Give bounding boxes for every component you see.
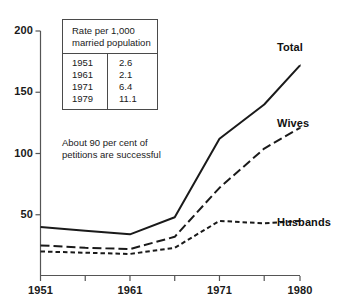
- x-axis-tick-label: 1951: [21, 284, 61, 296]
- chart-note: About 90 per cent of petitions are succe…: [62, 137, 172, 160]
- inset-table-year: 1961: [63, 69, 107, 81]
- inset-table-rate: 2.1: [107, 69, 157, 81]
- inset-rate-table: Rate per 1,000 married population 19512.…: [62, 19, 158, 110]
- y-axis-tick-label: 150: [3, 85, 33, 97]
- inset-table-year: 1971: [63, 81, 107, 93]
- y-axis-tick-label: 50: [3, 208, 33, 220]
- inset-table-caption: Rate per 1,000 married population: [63, 20, 157, 54]
- inset-table-year: 1979: [63, 93, 107, 105]
- y-axis-ticks: [36, 31, 41, 215]
- x-axis-tick-label: 1980: [280, 284, 320, 296]
- inset-table-row: 19512.6: [63, 57, 157, 69]
- inset-table-row: 19716.4: [63, 81, 157, 93]
- inset-table-row: 197911.1: [63, 93, 157, 105]
- chart-container: 50100150200 1951196119711980 Total Wives…: [0, 0, 347, 308]
- inset-table-rate: 11.1: [107, 93, 157, 105]
- series-label-husbands: Husbands: [277, 216, 331, 228]
- y-axis-tick-label: 200: [3, 24, 33, 36]
- x-axis-tick-label: 1971: [199, 284, 239, 296]
- series-label-total: Total: [277, 41, 303, 53]
- inset-table-rate: 2.6: [107, 57, 157, 69]
- inset-table-year: 1951: [63, 57, 107, 69]
- y-axis-tick-label: 100: [3, 147, 33, 159]
- x-axis-ticks: [41, 276, 301, 281]
- inset-table-column-divider: [107, 54, 108, 109]
- inset-table-body: 19512.619612.119716.4197911.1: [63, 54, 157, 109]
- series-label-wives: Wives: [277, 117, 309, 129]
- x-axis-tick-label: 1961: [110, 284, 150, 296]
- inset-table-rate: 6.4: [107, 81, 157, 93]
- inset-table-row: 19612.1: [63, 69, 157, 81]
